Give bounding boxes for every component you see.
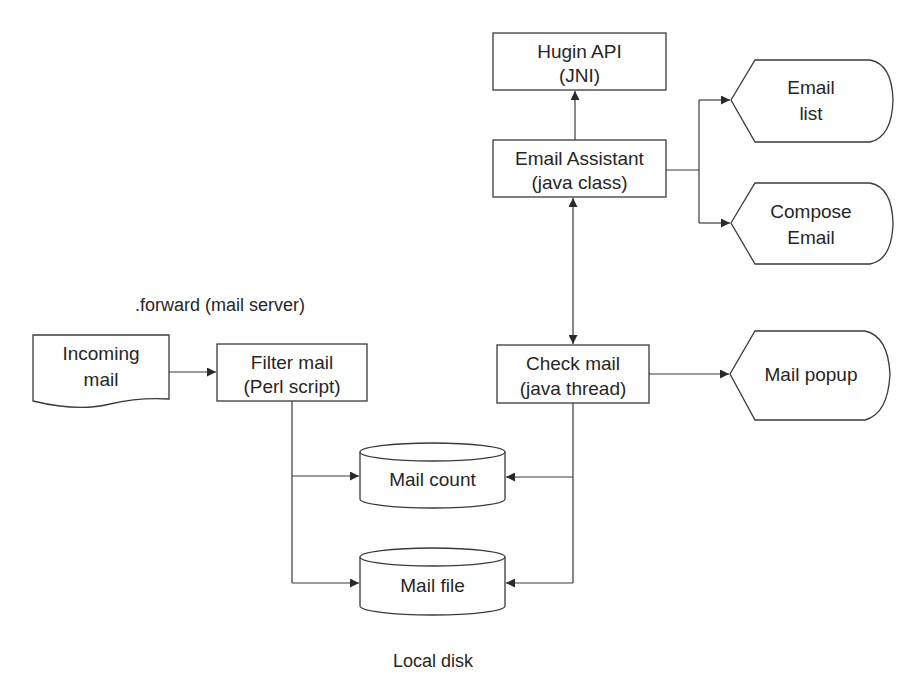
node-mail-file: Mail file (360, 548, 505, 615)
node-check-mail-line1: Check mail (526, 353, 620, 374)
node-hugin-api-line1: Hugin API (537, 41, 622, 62)
node-filter-mail: Filter mail (Perl script) (217, 344, 367, 401)
node-filter-mail-line1: Filter mail (251, 352, 333, 373)
node-email-assistant: Email Assistant (java class) (493, 140, 666, 197)
node-hugin-api-line2: (JNI) (559, 65, 600, 86)
node-mail-popup: Mail popup (730, 331, 890, 420)
node-filter-mail-line2: (Perl script) (243, 376, 340, 397)
node-mail-popup-line1: Mail popup (765, 364, 858, 385)
node-mail-count: Mail count (360, 443, 505, 508)
node-email-assistant-line2: (java class) (531, 172, 627, 193)
node-check-mail: Check mail (java thread) (497, 345, 649, 403)
node-compose-email: Compose Email (731, 183, 893, 264)
node-email-list-line2: list (799, 103, 823, 124)
flowchart-canvas: Hugin API (JNI) Email Assistant (java cl… (0, 0, 920, 696)
node-email-list: Email list (731, 60, 893, 142)
node-hugin-api: Hugin API (JNI) (493, 33, 666, 90)
node-mail-file-line1: Mail file (400, 575, 464, 596)
node-incoming-mail-line1: Incoming (62, 343, 139, 364)
node-compose-email-line2: Email (787, 227, 835, 248)
node-check-mail-line2: (java thread) (520, 378, 627, 399)
annotation-local-disk: Local disk (393, 651, 474, 671)
node-compose-email-line1: Compose (770, 201, 851, 222)
node-incoming-mail-line2: mail (84, 369, 119, 390)
annotation-forward: .forward (mail server) (135, 295, 305, 315)
node-email-list-line1: Email (787, 77, 835, 98)
node-incoming-mail: Incoming mail (33, 335, 169, 407)
node-email-assistant-line1: Email Assistant (515, 148, 645, 169)
node-mail-count-line1: Mail count (389, 469, 476, 490)
